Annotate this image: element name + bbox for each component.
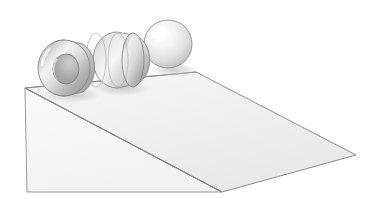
inclined-plane-illustration xyxy=(0,0,382,199)
hoop-object xyxy=(38,40,95,96)
sphere-body xyxy=(144,20,192,68)
hoop-hole xyxy=(53,54,79,84)
sphere-object xyxy=(144,20,192,68)
illustration-canvas xyxy=(0,0,382,199)
cylinder-object xyxy=(86,32,150,88)
sphere-highlight xyxy=(151,27,169,41)
